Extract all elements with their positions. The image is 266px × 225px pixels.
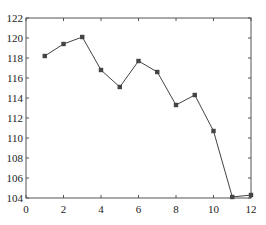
y-tick-label: 104	[7, 192, 24, 204]
x-tick-label: 12	[246, 203, 257, 215]
x-tick-label: 10	[208, 203, 220, 215]
data-point-marker	[193, 93, 197, 97]
plot-frame	[26, 18, 251, 198]
data-point-marker	[155, 70, 159, 74]
data-point-marker	[136, 59, 140, 63]
data-point-marker	[249, 193, 253, 197]
series-line	[45, 37, 251, 197]
data-point-marker	[43, 54, 47, 58]
data-point-marker	[61, 42, 65, 46]
data-point-marker	[99, 68, 103, 72]
y-tick-label: 112	[7, 112, 23, 124]
data-point-marker	[230, 195, 234, 199]
data-point-marker	[80, 35, 84, 39]
y-tick-label: 114	[7, 92, 24, 104]
y-tick-label: 120	[7, 32, 24, 44]
y-tick-label: 108	[7, 152, 24, 164]
x-tick-label: 4	[98, 203, 104, 215]
y-tick-label: 118	[7, 52, 24, 64]
y-tick-label: 116	[7, 72, 24, 84]
data-point-marker	[118, 85, 122, 89]
data-point-marker	[211, 129, 215, 133]
x-tick-label: 6	[136, 203, 142, 215]
line-chart: 024681012 104106108110112114116118120122	[0, 0, 266, 225]
x-tick-label: 8	[173, 203, 179, 215]
data-point-marker	[174, 103, 178, 107]
y-tick-label: 122	[7, 12, 24, 24]
x-tick-label: 2	[61, 203, 67, 215]
y-tick-label: 110	[7, 132, 24, 144]
data-series	[43, 35, 254, 199]
plot-border	[26, 18, 251, 198]
y-tick-label: 106	[7, 172, 24, 184]
y-axis: 104106108110112114116118120122	[7, 12, 252, 204]
x-tick-label: 0	[23, 203, 29, 215]
